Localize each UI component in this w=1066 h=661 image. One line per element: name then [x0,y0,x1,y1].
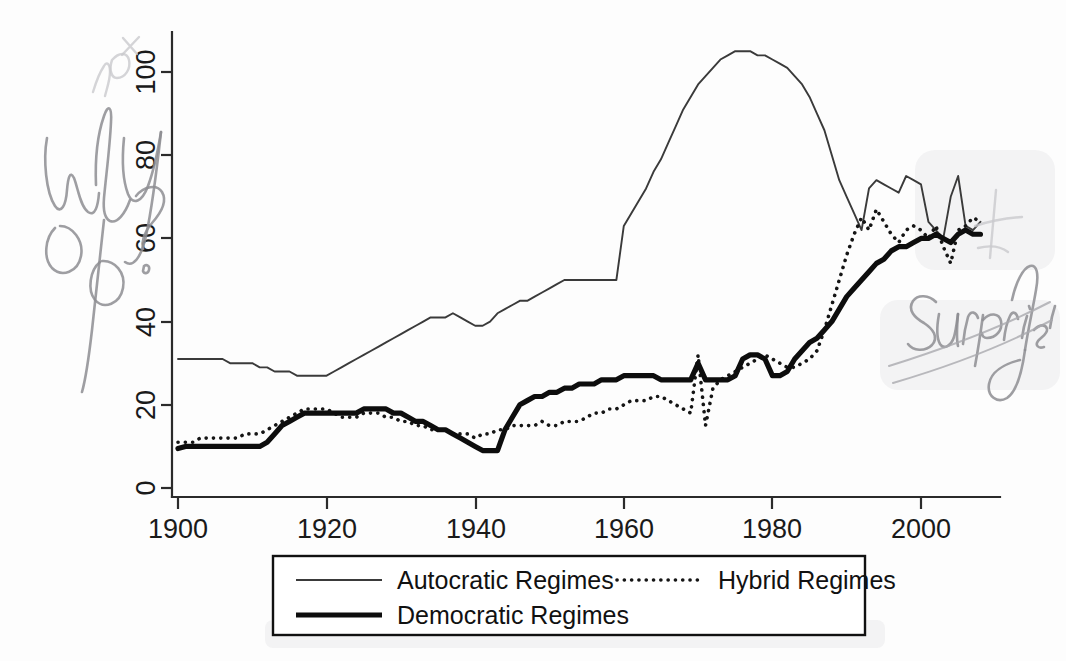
y-tick-label-40: 40 [131,307,161,337]
x-tick-label-1960: 1960 [594,514,654,544]
legend-label-democratic: Democratic Regimes [397,601,629,629]
y-tick-label-20: 20 [131,390,161,420]
x-tick-label-1920: 1920 [297,514,357,544]
legend-label-hybrid: Hybrid Regimes [718,566,896,594]
x-tick-label-1940: 1940 [446,514,506,544]
y-tick-label-0: 0 [131,480,161,495]
x-tick-label-1900: 1900 [148,514,208,544]
legend-label-autocratic: Autocratic Regimes [397,566,614,594]
x-tick-label-2000: 2000 [891,514,951,544]
chart-figure: 100 80 60 40 20 0 1900 1920 1940 1960 19… [0,0,1066,661]
x-tick-label-1980: 1980 [742,514,802,544]
chart-legend: Autocratic Regimes Hybrid Regimes Democr… [273,556,896,635]
y-tick-label-100: 100 [131,49,161,94]
